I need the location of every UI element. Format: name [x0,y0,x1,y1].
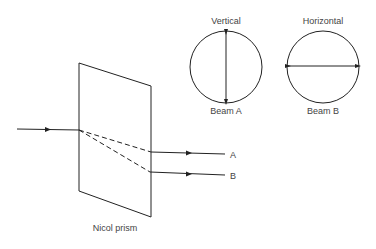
polarization-b-circle [287,31,359,103]
diagram-canvas: A B Nicol prism Vertical Beam A Horizont… [0,0,376,249]
beam-b-arrowhead [186,172,192,177]
incoming-ray-arrowhead [45,127,51,132]
polarization-b-title: Horizontal [303,16,344,26]
nicol-prism [79,63,151,217]
beam-b-label: B [230,171,236,181]
beam-b-internal-path [79,130,150,172]
prism-label: Nicol prism [93,223,138,233]
beam-a-arrowhead [186,151,192,156]
beam-a-internal-path [79,130,151,152]
polarization-b-caption: Beam B [307,106,339,116]
polarization-a-caption: Beam A [210,106,242,116]
polarization-a-title: Vertical [211,16,241,26]
beam-a-label: A [230,150,236,160]
